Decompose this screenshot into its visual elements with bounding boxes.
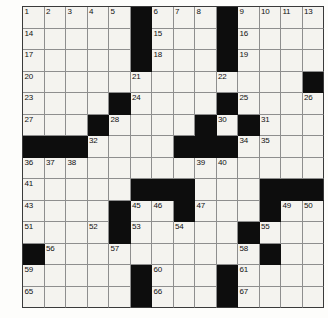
grid-open-cell[interactable] bbox=[45, 265, 67, 287]
grid-open-cell[interactable] bbox=[88, 287, 110, 309]
grid-open-cell[interactable]: 40 bbox=[217, 158, 239, 180]
grid-open-cell[interactable]: 18 bbox=[152, 50, 174, 72]
grid-open-cell[interactable]: 27 bbox=[23, 115, 45, 137]
grid-open-cell[interactable]: 36 bbox=[23, 158, 45, 180]
grid-open-cell[interactable] bbox=[281, 115, 303, 137]
grid-open-cell[interactable] bbox=[88, 158, 110, 180]
grid-open-cell[interactable] bbox=[303, 115, 325, 137]
grid-open-cell[interactable] bbox=[174, 244, 196, 266]
grid-open-cell[interactable]: 50 bbox=[303, 201, 325, 223]
grid-open-cell[interactable] bbox=[109, 265, 131, 287]
grid-open-cell[interactable] bbox=[45, 50, 67, 72]
grid-open-cell[interactable] bbox=[281, 287, 303, 309]
grid-open-cell[interactable] bbox=[260, 50, 282, 72]
grid-open-cell[interactable] bbox=[217, 244, 239, 266]
grid-open-cell[interactable] bbox=[45, 115, 67, 137]
grid-open-cell[interactable]: 46 bbox=[152, 201, 174, 223]
grid-open-cell[interactable]: 25 bbox=[238, 93, 260, 115]
grid-open-cell[interactable]: 9 bbox=[238, 7, 260, 29]
grid-open-cell[interactable]: 15 bbox=[152, 29, 174, 51]
grid-open-cell[interactable] bbox=[131, 115, 153, 137]
grid-open-cell[interactable] bbox=[88, 72, 110, 94]
grid-open-cell[interactable] bbox=[131, 158, 153, 180]
grid-open-cell[interactable] bbox=[174, 265, 196, 287]
grid-open-cell[interactable]: 56 bbox=[45, 244, 67, 266]
grid-open-cell[interactable] bbox=[238, 72, 260, 94]
grid-open-cell[interactable] bbox=[88, 179, 110, 201]
grid-open-cell[interactable] bbox=[88, 201, 110, 223]
grid-open-cell[interactable]: 61 bbox=[238, 265, 260, 287]
grid-open-cell[interactable] bbox=[303, 222, 325, 244]
grid-open-cell[interactable] bbox=[152, 136, 174, 158]
grid-open-cell[interactable] bbox=[217, 222, 239, 244]
grid-open-cell[interactable]: 17 bbox=[23, 50, 45, 72]
grid-open-cell[interactable] bbox=[109, 29, 131, 51]
grid-open-cell[interactable] bbox=[66, 50, 88, 72]
grid-open-cell[interactable] bbox=[281, 93, 303, 115]
grid-open-cell[interactable]: 21 bbox=[131, 72, 153, 94]
grid-open-cell[interactable]: 10 bbox=[260, 7, 282, 29]
grid-open-cell[interactable] bbox=[195, 72, 217, 94]
grid-open-cell[interactable]: 8 bbox=[195, 7, 217, 29]
grid-open-cell[interactable]: 41 bbox=[23, 179, 45, 201]
grid-open-cell[interactable] bbox=[45, 29, 67, 51]
grid-open-cell[interactable]: 7 bbox=[174, 7, 196, 29]
grid-open-cell[interactable]: 60 bbox=[152, 265, 174, 287]
grid-open-cell[interactable] bbox=[174, 115, 196, 137]
grid-open-cell[interactable] bbox=[260, 265, 282, 287]
grid-open-cell[interactable] bbox=[131, 244, 153, 266]
grid-open-cell[interactable] bbox=[281, 158, 303, 180]
grid-open-cell[interactable]: 37 bbox=[45, 158, 67, 180]
grid-open-cell[interactable]: 20 bbox=[23, 72, 45, 94]
grid-open-cell[interactable]: 26 bbox=[303, 93, 325, 115]
grid-open-cell[interactable]: 5 bbox=[109, 7, 131, 29]
grid-open-cell[interactable] bbox=[131, 136, 153, 158]
grid-open-cell[interactable] bbox=[281, 29, 303, 51]
grid-open-cell[interactable] bbox=[45, 179, 67, 201]
grid-open-cell[interactable]: 35 bbox=[260, 136, 282, 158]
grid-open-cell[interactable] bbox=[152, 115, 174, 137]
grid-open-cell[interactable]: 58 bbox=[238, 244, 260, 266]
grid-open-cell[interactable]: 14 bbox=[23, 29, 45, 51]
grid-open-cell[interactable] bbox=[66, 222, 88, 244]
grid-open-cell[interactable]: 66 bbox=[152, 287, 174, 309]
grid-open-cell[interactable] bbox=[45, 93, 67, 115]
grid-open-cell[interactable] bbox=[88, 244, 110, 266]
grid-open-cell[interactable] bbox=[45, 201, 67, 223]
grid-open-cell[interactable]: 31 bbox=[260, 115, 282, 137]
grid-open-cell[interactable] bbox=[303, 29, 325, 51]
grid-open-cell[interactable] bbox=[66, 29, 88, 51]
grid-open-cell[interactable] bbox=[303, 50, 325, 72]
grid-open-cell[interactable]: 23 bbox=[23, 93, 45, 115]
grid-open-cell[interactable]: 67 bbox=[238, 287, 260, 309]
grid-open-cell[interactable] bbox=[152, 72, 174, 94]
grid-open-cell[interactable] bbox=[109, 50, 131, 72]
grid-open-cell[interactable] bbox=[281, 50, 303, 72]
grid-open-cell[interactable]: 47 bbox=[195, 201, 217, 223]
grid-open-cell[interactable] bbox=[174, 287, 196, 309]
grid-open-cell[interactable] bbox=[281, 72, 303, 94]
grid-open-cell[interactable] bbox=[66, 115, 88, 137]
grid-open-cell[interactable] bbox=[88, 93, 110, 115]
grid-open-cell[interactable]: 49 bbox=[281, 201, 303, 223]
grid-open-cell[interactable] bbox=[281, 136, 303, 158]
grid-open-cell[interactable] bbox=[195, 222, 217, 244]
grid-open-cell[interactable]: 34 bbox=[238, 136, 260, 158]
grid-open-cell[interactable] bbox=[281, 244, 303, 266]
grid-open-cell[interactable]: 55 bbox=[260, 222, 282, 244]
grid-open-cell[interactable] bbox=[66, 93, 88, 115]
grid-open-cell[interactable]: 39 bbox=[195, 158, 217, 180]
grid-open-cell[interactable] bbox=[66, 265, 88, 287]
grid-open-cell[interactable] bbox=[174, 29, 196, 51]
crossword-grid[interactable]: 1234567891011131415161718192021222324252… bbox=[22, 6, 324, 308]
grid-open-cell[interactable] bbox=[195, 50, 217, 72]
grid-open-cell[interactable]: 28 bbox=[109, 115, 131, 137]
grid-open-cell[interactable] bbox=[260, 72, 282, 94]
grid-open-cell[interactable]: 45 bbox=[131, 201, 153, 223]
grid-open-cell[interactable]: 51 bbox=[23, 222, 45, 244]
grid-open-cell[interactable] bbox=[260, 158, 282, 180]
grid-open-cell[interactable] bbox=[195, 93, 217, 115]
grid-open-cell[interactable] bbox=[66, 287, 88, 309]
grid-open-cell[interactable] bbox=[109, 136, 131, 158]
grid-open-cell[interactable] bbox=[217, 179, 239, 201]
